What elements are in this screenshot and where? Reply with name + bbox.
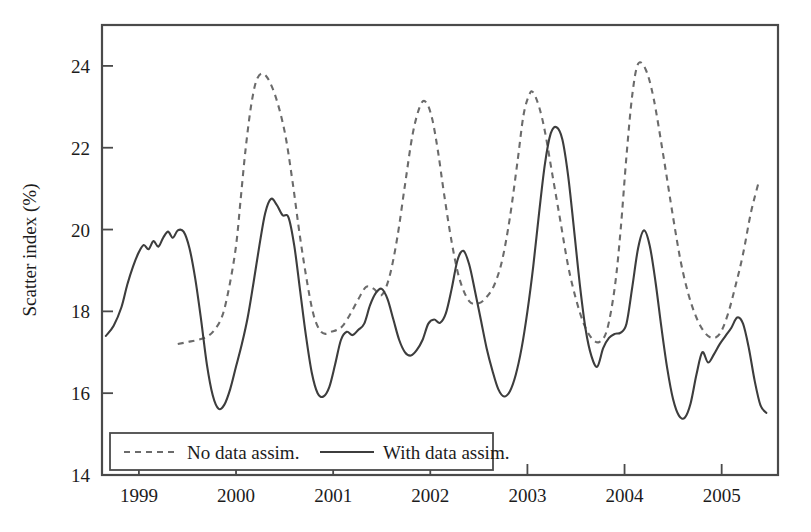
y-tick-label: 22 [71, 138, 90, 159]
y-tick-label: 14 [71, 465, 91, 486]
y-tick-label: 18 [71, 301, 90, 322]
plot-frame [102, 25, 778, 475]
chart-legend[interactable]: No data assim. With data assim. [110, 433, 509, 470]
y-axis-title: Scatter index (%) [19, 184, 41, 317]
y-tick-label: 20 [71, 220, 90, 241]
legend-label-no-data-assim: No data assim. [187, 442, 299, 463]
x-tick-label: 2000 [217, 485, 255, 506]
x-tick-label: 2004 [606, 485, 645, 506]
x-tick-label: 2001 [314, 485, 352, 506]
y-axis-ticks: 141618202224 [71, 56, 113, 486]
scatter-index-line-chart: 141618202224 199920002001200220032004200… [0, 0, 811, 532]
x-tick-label: 1999 [120, 485, 158, 506]
y-tick-label: 16 [71, 383, 90, 404]
legend-label-with-data-assim: With data assim. [383, 442, 509, 463]
y-tick-label: 24 [71, 56, 91, 77]
figure-container: 141618202224 199920002001200220032004200… [0, 0, 811, 532]
series-no-data-assim [178, 62, 759, 344]
x-tick-label: 2005 [703, 485, 741, 506]
series-with-data-assim [106, 127, 766, 419]
x-tick-label: 2003 [508, 485, 546, 506]
x-tick-label: 2002 [411, 485, 449, 506]
